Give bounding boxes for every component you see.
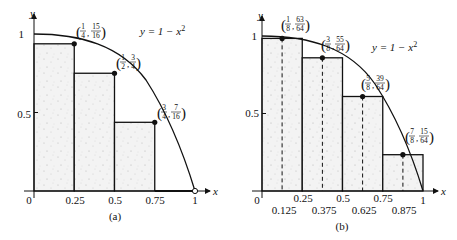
- axis-label-y-a: y: [29, 7, 35, 19]
- point-label-b-2: ( 3 8 , 55 64 ): [321, 35, 350, 54]
- point-label-b-4: ( 7 8 , 15 64 ): [405, 127, 434, 146]
- svg-text:7: 7: [410, 127, 414, 136]
- xtick-0875-b: 0.875: [392, 204, 417, 216]
- axis-label-y-b: y: [257, 9, 263, 21]
- point-label-a-2: ( 1 2 , 3 4 ): [116, 53, 141, 72]
- svg-text:): ): [101, 24, 106, 41]
- point-label-b-1: ( 1 8 , 63 64 ): [281, 15, 310, 34]
- xtick-0375-b: 0.375: [312, 204, 337, 216]
- point-a-1: [72, 41, 77, 46]
- ytick-1-b: 1: [252, 30, 258, 42]
- rect-a-3: [115, 122, 155, 191]
- rect-a-2: [74, 73, 114, 191]
- xtick-0125-b: 0.125: [272, 204, 297, 216]
- xtick-025-a: 0.25: [65, 194, 85, 206]
- ytick-05-label-b: 0.5: [245, 107, 259, 119]
- xtick-025-b: 0.25: [293, 192, 313, 204]
- svg-text:1: 1: [81, 22, 85, 31]
- svg-text:8: 8: [410, 136, 414, 145]
- svg-text:): ): [305, 17, 310, 34]
- xtick-05-a: 0.5: [108, 194, 122, 206]
- svg-text:4: 4: [162, 112, 166, 121]
- svg-text:16: 16: [92, 31, 100, 40]
- svg-text:,: ,: [127, 59, 129, 69]
- point-a-4-open: [192, 188, 197, 193]
- riemann-rectangles-b: [262, 38, 423, 191]
- svg-text:1: 1: [286, 15, 290, 24]
- ytick-1-a: 1: [19, 28, 25, 40]
- rect-a-1: [34, 44, 74, 191]
- panel-label-a: (a): [109, 210, 122, 223]
- svg-text:15: 15: [420, 127, 428, 136]
- svg-text:16: 16: [172, 112, 180, 121]
- point-b-4: [400, 152, 405, 157]
- svg-text:,: ,: [416, 133, 418, 143]
- point-b-1: [280, 36, 285, 41]
- panel-b: y x 1 0.5 0 0.25 0.5 0.75 1 0.125 0.375 …: [245, 9, 446, 233]
- xtick-1-a: 1: [192, 194, 198, 206]
- svg-text:64: 64: [376, 83, 384, 92]
- svg-text:63: 63: [296, 15, 304, 24]
- svg-text:2: 2: [121, 62, 125, 71]
- svg-text:5: 5: [366, 74, 370, 83]
- xtick-0-b: 0: [254, 194, 260, 206]
- svg-text:3: 3: [162, 103, 166, 112]
- svg-text:7: 7: [174, 103, 178, 112]
- point-label-a-1: ( 1 4 , 15 16 ): [76, 22, 106, 41]
- svg-text:8: 8: [326, 44, 330, 53]
- ytick-05-label-a: 0.5: [17, 108, 31, 120]
- svg-text:64: 64: [336, 44, 344, 53]
- svg-text:64: 64: [296, 24, 304, 33]
- svg-text:,: ,: [372, 80, 374, 90]
- svg-text:4: 4: [81, 31, 85, 40]
- axis-label-x-a: x: [212, 185, 218, 197]
- svg-text:3: 3: [131, 53, 135, 62]
- svg-text:): ): [181, 105, 186, 122]
- svg-text:55: 55: [336, 35, 344, 44]
- svg-text:39: 39: [376, 74, 384, 83]
- figure-canvas: y x 1 0.5 0 0.25 0.5 0.75 1 (a) y = 1 − …: [0, 0, 457, 240]
- xtick-05-b: 0.5: [336, 192, 350, 204]
- xtick-1-b: 1: [420, 194, 426, 206]
- panel-label-b: (b): [336, 220, 349, 233]
- svg-text:,: ,: [332, 41, 334, 51]
- point-b-3: [360, 94, 365, 99]
- svg-text:): ): [136, 55, 141, 72]
- svg-text:): ): [429, 129, 434, 146]
- xtick-075-b: 0.75: [373, 192, 393, 204]
- svg-text:15: 15: [92, 22, 100, 31]
- svg-text:,: ,: [87, 28, 89, 38]
- svg-text:1: 1: [121, 53, 125, 62]
- function-label-a: y = 1 − x2: [139, 24, 185, 37]
- function-label-b: y = 1 − x2: [371, 40, 417, 53]
- svg-text:): ): [345, 37, 350, 54]
- point-a-2: [112, 71, 117, 76]
- xtick-0625-b: 0.625: [352, 204, 377, 216]
- panel-a: y x 1 0.5 0 0.25 0.5 0.75 1 (a) y = 1 − …: [17, 7, 218, 223]
- svg-text:,: ,: [168, 109, 170, 119]
- svg-text:4: 4: [131, 62, 135, 71]
- axis-label-x-b: x: [440, 185, 446, 197]
- svg-text:): ): [385, 76, 390, 93]
- point-label-b-3: ( 5 8 , 39 64 ): [361, 74, 390, 93]
- svg-text:8: 8: [286, 24, 290, 33]
- svg-text:64: 64: [420, 136, 428, 145]
- svg-text:8: 8: [366, 83, 370, 92]
- point-b-2: [320, 55, 325, 60]
- xtick-075-a: 0.75: [145, 194, 165, 206]
- svg-text:3: 3: [326, 35, 330, 44]
- svg-text:,: ,: [292, 21, 294, 31]
- xtick-0-a: 0: [26, 194, 32, 206]
- point-label-a-3: ( 3 4 , 7 16 ): [157, 103, 186, 122]
